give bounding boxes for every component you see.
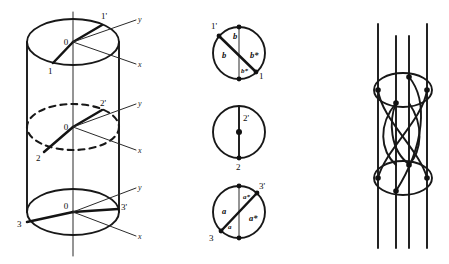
figure-root: 0 1' 1 y x 0 2' 2 y x 0 3' bbox=[0, 0, 449, 264]
braid-node-lower-bottom bbox=[393, 188, 399, 194]
braid-node-upper-top bbox=[406, 74, 412, 80]
middle-axis-x-label: x bbox=[137, 146, 142, 155]
top-axis-x-label: x bbox=[137, 60, 142, 69]
middle-section-point-label: 2 bbox=[36, 153, 41, 163]
circle-top-dot-1prime bbox=[217, 34, 222, 39]
figure-canvas: 0 1' 1 y x 0 2' 2 y x 0 3' bbox=[0, 0, 449, 264]
braid-node-lower-top bbox=[406, 162, 412, 168]
braid-node-lower-left bbox=[375, 175, 381, 181]
bottom-axis-x-label: x bbox=[137, 232, 142, 241]
circle-top-arc-label-right: b* bbox=[250, 50, 259, 60]
circle-top-dot-1 bbox=[254, 70, 259, 75]
circle-middle-dot-center bbox=[236, 129, 242, 135]
circle-bottom-point-label: 3 bbox=[209, 233, 214, 243]
circle-bottom-arc-label-upper: a* bbox=[243, 193, 251, 201]
circle-bottom-dot-3 bbox=[219, 229, 224, 234]
top-section-point-label: 1 bbox=[48, 66, 53, 76]
middle-section-center-label: 0 bbox=[64, 122, 69, 132]
middle-section-point-prime-label: 2' bbox=[100, 98, 107, 108]
middle-axis-y-label: y bbox=[137, 99, 142, 108]
circle-middle-point-prime-label: 2' bbox=[243, 113, 250, 123]
circle-bottom-dot-top bbox=[237, 184, 242, 189]
circle-middle-dot-bottom bbox=[237, 156, 242, 161]
circle-top-point-prime-label: 1' bbox=[211, 21, 218, 31]
circle-top-arc-label-upper: b bbox=[233, 31, 237, 41]
braid-node-upper-left bbox=[375, 87, 381, 93]
braid-node-upper-bottom bbox=[393, 100, 399, 106]
bottom-section-point-label: 3 bbox=[17, 219, 22, 229]
circle-bottom-dot-3prime bbox=[255, 191, 260, 196]
circle-bottom-point-prime-label: 3' bbox=[259, 181, 266, 191]
braid-node-lower-right bbox=[424, 175, 430, 181]
circle-bottom-arc-label-right: a* bbox=[249, 213, 258, 223]
circle-bottom-arc-label-lower: a bbox=[228, 223, 232, 231]
braid-node-upper-right bbox=[424, 87, 430, 93]
circle-middle-point-label: 2 bbox=[236, 162, 241, 172]
circle-top-dot-top bbox=[237, 25, 242, 30]
circle-top-point-label: 1 bbox=[259, 71, 264, 81]
circle-top-arc-label-lower: b* bbox=[241, 67, 249, 75]
bottom-axis-y-label: y bbox=[137, 183, 142, 192]
top-axis-y-label: y bbox=[137, 15, 142, 24]
bottom-section-center-label: 0 bbox=[64, 201, 69, 211]
top-section-center-label: 0 bbox=[64, 37, 69, 47]
circle-bottom-dot-bottom bbox=[237, 236, 242, 241]
top-section-point-prime-label: 1' bbox=[101, 11, 108, 21]
circle-top-dot-bottom bbox=[237, 77, 242, 82]
bottom-section-point-prime-label: 3' bbox=[121, 202, 128, 212]
circle-top-arc-label-left: b bbox=[222, 50, 226, 60]
